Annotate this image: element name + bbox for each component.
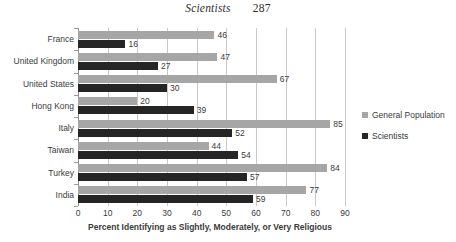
bar-group: 2039 — [78, 97, 345, 117]
x-tick-label-10: 10 — [95, 208, 121, 218]
category-label-taiwan: Taiwan — [0, 145, 74, 155]
bar-group: 8552 — [78, 120, 345, 140]
x-tick-label-80: 80 — [302, 208, 328, 218]
bar-general-population — [78, 75, 277, 83]
legend-label: General Population — [372, 110, 445, 120]
category-label-united-kingdom: United Kingdom — [0, 56, 74, 66]
bar-general-population — [78, 186, 306, 194]
bar-scientists — [78, 62, 158, 70]
legend-swatch-icon — [362, 133, 368, 139]
category-label-turkey: Turkey — [0, 168, 74, 178]
x-tick-label-20: 20 — [124, 208, 150, 218]
bar-group: 7759 — [78, 186, 345, 206]
bar-scientists — [78, 173, 247, 181]
bar-value-label: 67 — [280, 75, 289, 83]
y-axis-tick — [74, 139, 78, 140]
bar-scientists — [78, 106, 194, 114]
legend-swatch-icon — [362, 112, 368, 118]
bar-value-label: 20 — [140, 97, 149, 105]
bar-value-label: 39 — [197, 106, 206, 114]
bar-group: 6730 — [78, 75, 345, 95]
bar-scientists — [78, 151, 238, 159]
y-axis-tick — [74, 95, 78, 96]
bar-general-population — [78, 164, 327, 172]
y-axis-tick — [74, 28, 78, 29]
bar-value-label: 27 — [161, 62, 170, 70]
bar-chart-figure: FranceUnited KingdomUnited StatesHong Ko… — [0, 0, 456, 242]
x-tick-label-40: 40 — [184, 208, 210, 218]
legend-item-general: General Population — [362, 110, 445, 120]
bar-general-population — [78, 31, 214, 39]
gridline-90 — [345, 28, 346, 206]
y-axis-tick — [74, 206, 78, 207]
bar-value-label: 85 — [333, 120, 342, 128]
y-axis-tick — [74, 162, 78, 163]
plot-area: 46164727673020398552445484577759 — [78, 28, 345, 206]
bar-value-label: 84 — [330, 164, 339, 172]
y-axis-tick — [74, 184, 78, 185]
bar-scientists — [78, 129, 232, 137]
bar-group: 8457 — [78, 164, 345, 184]
x-tick-label-30: 30 — [154, 208, 180, 218]
y-axis-tick — [74, 50, 78, 51]
x-axis-title: Percent Identifying as Slightly, Moderat… — [0, 222, 420, 232]
y-axis-tick — [74, 73, 78, 74]
legend-item-scientists: Scientists — [362, 131, 445, 141]
bar-scientists — [78, 84, 167, 92]
x-tick-label-70: 70 — [273, 208, 299, 218]
bar-scientists — [78, 40, 125, 48]
bar-value-label: 46 — [217, 31, 226, 39]
bar-value-label: 57 — [250, 173, 259, 181]
x-tick-label-90: 90 — [332, 208, 358, 218]
bar-value-label: 54 — [241, 151, 250, 159]
x-tick-label-50: 50 — [213, 208, 239, 218]
bar-general-population — [78, 53, 217, 61]
category-label-hong-kong: Hong Kong — [0, 101, 74, 111]
bar-value-label: 59 — [256, 195, 265, 203]
y-axis-tick — [74, 117, 78, 118]
bar-general-population — [78, 97, 137, 105]
category-label-united-states: United States — [0, 79, 74, 89]
bar-value-label: 52 — [235, 129, 244, 137]
legend-label: Scientists — [372, 131, 408, 141]
chart-legend: General PopulationScientists — [362, 110, 445, 152]
bar-value-label: 30 — [170, 84, 179, 92]
bar-group: 4454 — [78, 142, 345, 162]
bar-value-label: 77 — [309, 186, 318, 194]
bar-value-label: 47 — [220, 53, 229, 61]
category-label-italy: Italy — [0, 123, 74, 133]
category-label-france: France — [0, 34, 74, 44]
y-axis-category-labels: FranceUnited KingdomUnited StatesHong Ko… — [0, 28, 74, 206]
bar-value-label: 44 — [212, 142, 221, 150]
bar-general-population — [78, 120, 330, 128]
bar-value-label: 16 — [128, 40, 137, 48]
category-label-india: India — [0, 190, 74, 200]
x-tick-label-60: 60 — [243, 208, 269, 218]
bar-group: 4727 — [78, 53, 345, 73]
bar-group: 4616 — [78, 31, 345, 51]
bar-scientists — [78, 195, 253, 203]
bar-general-population — [78, 142, 209, 150]
x-tick-label-0: 0 — [65, 208, 91, 218]
